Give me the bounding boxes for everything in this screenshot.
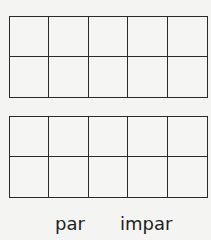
frame-cell[interactable] [49,17,88,57]
frame-cell[interactable] [168,57,207,97]
frame-cell[interactable] [168,157,207,197]
frame-cell[interactable] [89,17,128,57]
frame-cell[interactable] [128,17,167,57]
frame-cell[interactable] [49,57,88,97]
frame-cell[interactable] [128,117,167,157]
frame-cell[interactable] [89,157,128,197]
frame-cell[interactable] [128,157,167,197]
frame-cell[interactable] [89,117,128,157]
ten-frame-top [9,16,208,98]
frame-cell[interactable] [168,17,207,57]
odd-label: impar [120,214,172,234]
frame-cell[interactable] [10,157,49,197]
even-label: par [55,214,85,234]
frame-cell[interactable] [10,57,49,97]
frame-cell[interactable] [128,57,167,97]
frame-cell[interactable] [168,117,207,157]
frame-cell[interactable] [89,57,128,97]
frame-cell[interactable] [10,117,49,157]
frame-cell[interactable] [49,117,88,157]
frame-cell[interactable] [10,17,49,57]
ten-frame-bottom [9,116,208,198]
frame-cell[interactable] [49,157,88,197]
